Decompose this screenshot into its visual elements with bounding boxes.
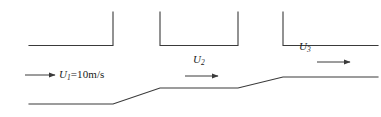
- right-ceiling-segment: [283, 12, 378, 46]
- velocity-subscript-u3: 3: [307, 45, 311, 54]
- velocity-symbol-u3: U: [299, 40, 307, 52]
- middle-ceiling-segment: [160, 12, 238, 46]
- diagram-canvas: [0, 0, 381, 117]
- velocity-symbol-u1: U: [59, 68, 67, 80]
- velocity-subscript-u2: 2: [201, 58, 205, 67]
- velocity-value-u1: =10m/s: [71, 68, 105, 80]
- velocity-label-u2: U2: [193, 54, 205, 66]
- velocity-label-u3: U3: [299, 41, 311, 53]
- velocity-symbol-u2: U: [193, 53, 201, 65]
- left-ceiling-segment: [29, 12, 113, 46]
- velocity-label-u1: U1=10m/s: [59, 69, 105, 81]
- duct-flow-diagram: U1=10m/s U2 U3: [0, 0, 381, 117]
